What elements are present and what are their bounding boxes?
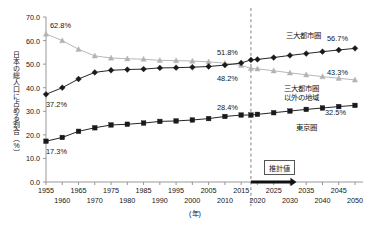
value-annotation: 32.5%: [325, 108, 346, 117]
x-tick-label: 1955: [38, 186, 54, 195]
x-tick-label: 1995: [168, 186, 184, 195]
value-annotation: 43.3%: [327, 68, 348, 77]
series-label: 三大都市圏: [286, 32, 321, 41]
x-tick-label: 2025: [266, 186, 282, 195]
x-tick-label: 2000: [184, 196, 200, 205]
x-tick-label: 2045: [331, 186, 347, 195]
x-tick-label: 2020: [249, 196, 265, 205]
x-tick-label: 2035: [298, 186, 314, 195]
estimate-label-box: 推計値: [264, 160, 295, 175]
x-tick-label: 2005: [201, 186, 217, 195]
series-label-line: 三大都市圏: [286, 32, 321, 41]
value-annotation: 62.8%: [50, 21, 71, 30]
value-annotation: 28.4%: [217, 103, 238, 112]
value-annotation: 17.3%: [46, 147, 67, 156]
series-label-line: 東京圏: [296, 124, 317, 133]
x-tick-label: 2040: [314, 196, 330, 205]
series-label-line: 以外の地域: [284, 94, 319, 103]
population-share-line-chart: 日本の総人口に占める割合（%） 0.010.020.030.040.050.06…: [0, 0, 369, 227]
x-tick-label: 2015: [233, 186, 249, 195]
value-annotation: 48.2%: [217, 74, 238, 83]
x-tick-label: 1980: [119, 196, 135, 205]
x-tick-label: 2030: [282, 196, 298, 205]
value-annotation: 56.7%: [327, 34, 348, 43]
x-tick-label: 1985: [136, 186, 152, 195]
value-annotation: 51.8%: [217, 48, 238, 57]
x-tick-label: 1970: [87, 196, 103, 205]
x-tick-label: 1975: [103, 186, 119, 195]
x-tick-label: 1990: [152, 196, 168, 205]
value-annotation: 37.2%: [46, 100, 67, 109]
x-axis-unit-label: (年): [189, 208, 201, 218]
series-label: 東京圏: [296, 124, 317, 133]
x-tick-label: 1960: [54, 196, 70, 205]
x-tick-label: 2050: [347, 196, 363, 205]
x-tick-label: 2010: [217, 196, 233, 205]
series-label: 三大都市圏以外の地域: [284, 85, 319, 102]
x-tick-label: 1965: [71, 186, 87, 195]
